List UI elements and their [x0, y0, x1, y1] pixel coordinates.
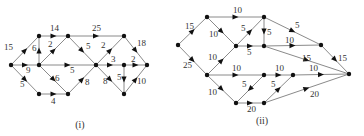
edge-weight-label: 15: [4, 42, 14, 52]
node-BM: [66, 92, 70, 96]
node-R: [145, 63, 149, 67]
node-MU: [234, 44, 238, 48]
figure-caption: (ii): [256, 115, 268, 127]
edge-weight-label: 5: [70, 65, 75, 75]
node-RU: [319, 43, 323, 47]
edge-weight-label: 18: [137, 38, 147, 48]
figure-caption: (i): [75, 119, 84, 131]
edge-labels: 1525101055551015151010101010520520: [183, 5, 348, 114]
arrow-icon: [36, 48, 41, 54]
edge-weight-label: 5: [86, 41, 91, 51]
edge-weight-label: 10: [309, 63, 319, 73]
edge-weight-label: 6: [55, 73, 60, 83]
edge-weight-label: 10: [208, 87, 218, 97]
node-L: [176, 43, 180, 47]
edge-weight-label: 10: [137, 76, 147, 86]
node-C: [94, 63, 98, 67]
edge-weight-label: 4: [51, 96, 56, 106]
edge-weight-label: 3: [111, 54, 116, 64]
edge-weight-label: 8: [85, 77, 90, 87]
network-diagrams: 151425186259554682325810(i) 152510105555…: [0, 0, 364, 136]
edge-weight-label: 15: [302, 53, 312, 63]
edge-weight-label: 9: [26, 65, 31, 75]
graph-i: 151425186259554682325810(i): [4, 23, 149, 131]
arrow-icon: [276, 72, 282, 77]
edge-weight-label: 8: [103, 76, 108, 86]
edge-weight-label: 2: [131, 54, 136, 64]
edge-weight-label: 5: [271, 79, 276, 89]
node-BL: [37, 92, 41, 96]
arrow-icon: [121, 77, 126, 83]
edge-weight-label: 5: [242, 79, 247, 89]
edge-weight-label: 10: [233, 5, 243, 15]
edge-weight-label: 10: [232, 63, 242, 73]
edge-weight-label: 15: [338, 53, 348, 63]
node-MM2: [291, 73, 295, 77]
arrow-icon: [51, 33, 57, 38]
node-TM: [262, 15, 266, 19]
node-TM: [66, 34, 70, 38]
edge-weight-label: 10: [208, 52, 218, 62]
edge-weight-label: 2: [48, 39, 53, 49]
node-BR: [122, 92, 126, 96]
edge-weight-label: 6: [32, 43, 37, 53]
node-TL: [205, 15, 209, 19]
edge-weight-label: 25: [183, 60, 193, 70]
edge-weight-label: 25: [92, 23, 102, 33]
edge-weight-label: 10: [285, 35, 295, 45]
node-ML: [205, 73, 209, 77]
edge-weight-label: 2: [101, 40, 106, 50]
edge-weight-label: 14: [50, 23, 60, 33]
arrow-icon: [233, 14, 239, 19]
node-L: [9, 63, 13, 67]
edge-weight-label: 5: [20, 79, 25, 89]
arrow-icon: [318, 72, 324, 77]
edge-weight-label: 10: [275, 63, 285, 73]
edge-weight-label: 10: [209, 29, 219, 39]
edge-weight-label: 15: [185, 21, 195, 31]
node-B1: [234, 101, 238, 105]
node-TL: [37, 34, 41, 38]
arrow-icon: [93, 33, 99, 38]
node-TR: [122, 34, 126, 38]
edge-weight-label: 5: [117, 72, 122, 82]
node-MR: [122, 63, 126, 67]
node-MM1: [262, 73, 266, 77]
arrow-icon: [261, 29, 266, 35]
arrow-icon: [233, 72, 239, 77]
edge-weight-label: 5: [295, 20, 300, 30]
edge-weight-label: 20: [310, 89, 320, 99]
node-B2: [262, 101, 266, 105]
node-MUR: [262, 44, 266, 48]
node-S: [347, 72, 351, 76]
node-ML: [37, 63, 41, 67]
edge-weight-label: 20: [247, 104, 257, 114]
edges: [178, 14, 349, 105]
edge-weight-label: 5: [267, 27, 272, 37]
graph-ii: 1525101055551015151010101010520520(ii): [176, 5, 351, 127]
edge-weight-label: 5: [241, 23, 246, 33]
edge-weight-label: 5: [247, 47, 252, 57]
